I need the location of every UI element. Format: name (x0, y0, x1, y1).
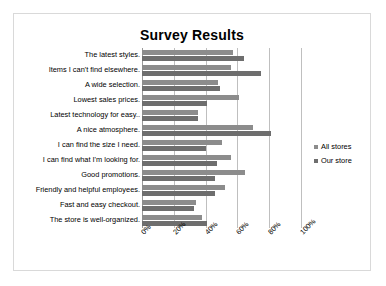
category-label: Items I can't find elsewhere. (16, 66, 140, 74)
plot-wrapper: The latest styles.Items I can't find els… (14, 14, 372, 272)
legend-item[interactable]: Our store (314, 156, 370, 165)
chart-legend: All storesOur store (314, 142, 370, 170)
category-label: The store is well-organized. (16, 216, 140, 224)
bar (142, 131, 271, 136)
plot-area (142, 48, 301, 228)
bar (142, 140, 222, 145)
bar (142, 110, 198, 115)
value-axis-tick-labels: 0%20%40%60%80%100% (142, 230, 322, 270)
gridline (301, 48, 302, 228)
chart-frame: Survey Results The latest styles.Items I… (13, 13, 371, 271)
legend-swatch-icon (314, 145, 318, 149)
bar (142, 86, 220, 91)
category-label: A nice atmosphere. (16, 126, 140, 134)
bar (142, 161, 217, 166)
bar (142, 170, 245, 175)
legend-swatch-icon (314, 159, 318, 163)
bar (142, 56, 244, 61)
category-label: The latest styles. (16, 51, 140, 59)
bar (142, 206, 194, 211)
bar (142, 185, 225, 190)
category-label: I can find the size I need. (16, 141, 140, 149)
bar (142, 71, 261, 76)
bar (142, 155, 231, 160)
category-axis-labels: The latest styles.Items I can't find els… (16, 48, 142, 228)
bar (142, 146, 206, 151)
bar (142, 215, 202, 220)
bar (142, 125, 253, 130)
gridline (269, 48, 270, 228)
bar (142, 80, 218, 85)
bar (142, 191, 215, 196)
bar (142, 50, 233, 55)
legend-label: All stores (321, 142, 351, 151)
bar (142, 95, 239, 100)
category-label: Good promotions. (16, 171, 140, 179)
bar (142, 65, 231, 70)
category-label: Latest technology for easy.. (16, 111, 140, 119)
bar (142, 101, 207, 106)
category-label: A wide selection. (16, 81, 140, 89)
category-label: Lowest sales prices. (16, 96, 140, 104)
bar (142, 116, 198, 121)
category-label: I can find what I'm looking for. (16, 156, 140, 164)
bar (142, 176, 215, 181)
category-label: Fast and easy checkout. (16, 201, 140, 209)
legend-label: Our store (321, 156, 352, 165)
legend-item[interactable]: All stores (314, 142, 370, 151)
bar (142, 200, 196, 205)
category-label: Friendly and helpful employees. (16, 186, 140, 194)
